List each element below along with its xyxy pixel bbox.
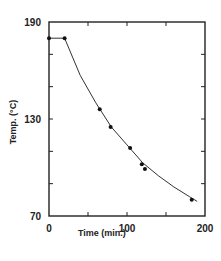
- data-point: [109, 125, 113, 129]
- data-point: [98, 107, 102, 111]
- data-point: [190, 198, 194, 202]
- fitted-curve: [49, 38, 197, 201]
- x-tick-label: 200: [197, 223, 214, 234]
- y-tick-label: 190: [24, 17, 41, 28]
- x-tick-label: 0: [46, 223, 52, 234]
- y-tick-label: 130: [24, 114, 41, 125]
- plot-border: [49, 22, 205, 216]
- tick-labels: 010020070130190: [24, 17, 213, 234]
- data-point: [143, 167, 147, 171]
- data-point: [140, 162, 144, 166]
- y-tick-label: 70: [30, 211, 42, 222]
- data-point: [47, 36, 51, 40]
- data-point: [63, 36, 67, 40]
- axis-ticks: [49, 22, 205, 216]
- x-axis-label: Time (min.): [78, 228, 126, 238]
- data-point: [128, 146, 132, 150]
- plot-frame: [49, 22, 205, 216]
- data-points: [47, 36, 194, 202]
- y-axis-label: Temp. (°C): [8, 100, 18, 144]
- chart: 010020070130190 Time (min.) Temp. (°C): [0, 0, 221, 261]
